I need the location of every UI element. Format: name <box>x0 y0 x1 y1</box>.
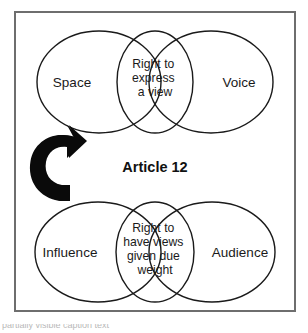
curved-arrow-right-shape <box>30 125 85 201</box>
top-left-label: Space <box>53 75 91 90</box>
bottom-center-label: Right to have views given due weight <box>123 221 187 277</box>
venn-diagram: Space Voice Right to express a view Arti… <box>0 0 308 333</box>
top-venn-group: Space Voice Right to express a view <box>37 31 273 133</box>
bottom-venn-group: Influence Audience Right to have views g… <box>35 202 275 302</box>
curved-arrow-right <box>30 125 85 201</box>
figure-caption-clipped: partially visible caption text <box>2 324 306 333</box>
figure-page: Space Voice Right to express a view Arti… <box>0 0 308 333</box>
top-center-label: Right to express a view <box>132 57 178 99</box>
top-right-label: Voice <box>222 75 255 90</box>
article-title: Article 12 <box>122 159 187 175</box>
bottom-right-label: Audience <box>212 245 268 260</box>
figure-caption-text: partially visible caption text <box>2 324 306 330</box>
bottom-left-label: Influence <box>43 245 98 260</box>
